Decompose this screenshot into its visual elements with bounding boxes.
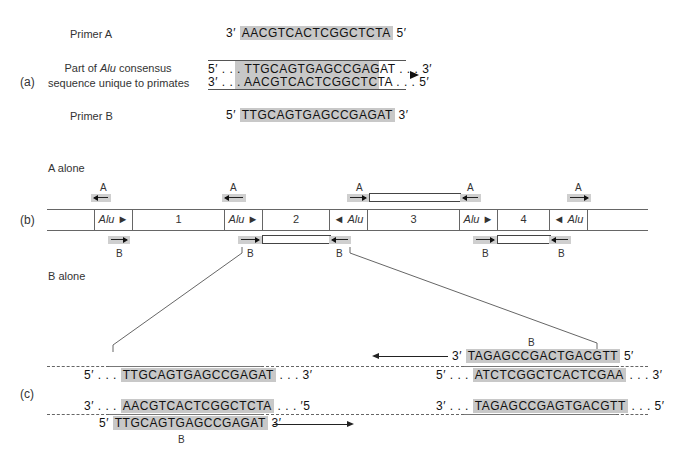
primer-bases: TTGCAGTGAGCCGAGAT	[113, 416, 268, 430]
primer-bases: TAGAGCCGACTGACGTT	[466, 349, 620, 363]
right-bottom-strand: 3′ . . . TAGAGCCGAGTGACGTT . . . 5′	[436, 399, 665, 413]
right-top-strand: 5′ . . . ATCTCGGCTCACTCGAA . . . 3′	[436, 368, 663, 382]
extension-arrow-line	[273, 424, 348, 425]
strand-end: 5′ . . .	[84, 368, 117, 382]
primer-end: 3′	[452, 349, 462, 363]
strand-dashed	[47, 366, 109, 367]
left-bottom-strand: 3′ . . . AACGTCACTCGGCTCTA . . . ′5	[84, 399, 311, 413]
zoom-connector-lines	[0, 0, 674, 460]
strand-solid	[109, 414, 261, 415]
strand-dashed	[616, 414, 648, 415]
primer-b-tag: B	[528, 337, 535, 348]
strand-dashed	[616, 366, 648, 367]
strand-end: 5′ . . .	[436, 368, 469, 382]
strand-end: . . . ′5	[278, 399, 311, 413]
primer-end: 5′	[99, 416, 109, 430]
right-primer-b: 3′ TAGAGCCGACTGACGTT 5′	[452, 349, 634, 363]
primer-end: 5′	[624, 349, 634, 363]
strand-bases: ATCTCGGCTCACTCGAA	[473, 368, 626, 382]
strand-end: 3′ . . .	[436, 399, 469, 413]
left-top-strand: 5′ . . . TTGCAGTGAGCCGAGAT . . . 3′	[84, 368, 313, 382]
extension-arrow-line	[378, 356, 448, 357]
strand-dashed	[261, 414, 464, 415]
strand-solid	[109, 366, 261, 367]
primer-b-tag: B	[178, 434, 185, 445]
primer-end: 3′	[272, 416, 282, 430]
strand-end: . . . 3′	[630, 368, 663, 382]
strand-end: . . . 3′	[280, 368, 313, 382]
strand-dashed	[261, 366, 464, 367]
strand-solid	[464, 414, 616, 415]
panel-c-label: (c)	[20, 387, 34, 401]
strand-dashed	[47, 414, 109, 415]
strand-solid	[464, 366, 616, 367]
strand-bases: TAGAGCCGAGTGACGTT	[473, 399, 628, 413]
strand-end: . . . 5′	[632, 399, 665, 413]
left-primer-b: 5′ TTGCAGTGAGCCGAGAT 3′	[99, 416, 282, 430]
strand-end: 3′ . . .	[84, 399, 117, 413]
strand-bases: TTGCAGTGAGCCGAGAT	[121, 368, 276, 382]
extension-arrowhead-right-icon	[347, 421, 354, 427]
strand-bases: AACGTCACTCGGCTCTA	[121, 399, 274, 413]
